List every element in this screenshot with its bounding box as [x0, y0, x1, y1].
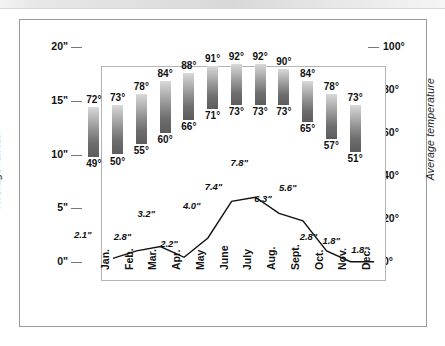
- right-axis-title: Average temperature: [424, 78, 436, 180]
- month-label: Apr.: [170, 250, 182, 270]
- left-tick-mark: [71, 47, 82, 48]
- month-label: Nov.: [336, 248, 348, 270]
- scan-artifact-strip: [0, 0, 445, 9]
- temperature-bar: [88, 107, 99, 156]
- rainfall-value-label: 4.0": [183, 200, 201, 211]
- month-label: Mar.: [146, 249, 158, 270]
- month-label: Sept.: [289, 244, 301, 270]
- left-tick-label: 5": [38, 201, 68, 213]
- rainfall-value-label: 2.8": [114, 231, 132, 242]
- rainfall-value-label: 5.6": [279, 182, 297, 193]
- rainfall-value-label: 7.4": [205, 181, 223, 192]
- rainfall-value-label: 6.3": [254, 193, 272, 204]
- left-tick-label: 20": [38, 40, 68, 52]
- left-tick-mark: [71, 155, 82, 156]
- right-tick-mark: [368, 47, 379, 48]
- month-label: June: [218, 245, 230, 270]
- month-label: Feb.: [123, 248, 135, 270]
- rainfall-value-label: 3.2": [137, 208, 155, 219]
- left-tick-label: 10": [38, 148, 68, 160]
- bar-high-label: 90°: [270, 56, 297, 67]
- month-label: May: [194, 250, 206, 270]
- rainfall-value-label: 7.8": [230, 157, 248, 168]
- left-axis-title: Average rainfall: [0, 132, 2, 208]
- right-tick-label: 100°: [383, 40, 405, 52]
- month-label: Aug.: [265, 247, 277, 270]
- month-label: Oct.: [313, 250, 325, 270]
- left-tick-mark: [71, 262, 82, 263]
- left-tick-mark: [71, 208, 82, 209]
- rainfall-value-label: 1.8": [322, 235, 340, 246]
- left-tick-label: 15": [38, 94, 68, 106]
- rainfall-value-label: 2.8": [300, 231, 318, 242]
- month-label: Jan.: [99, 249, 111, 270]
- rainfall-value-label: 2.2": [160, 238, 178, 249]
- month-label: Dec.: [360, 248, 372, 270]
- figure-frame: Average rainfall Average temperature 0"5…: [19, 19, 427, 327]
- rainfall-value-label: 2.1": [74, 229, 92, 240]
- month-label: July: [241, 249, 253, 270]
- left-tick-label: 0": [38, 255, 68, 267]
